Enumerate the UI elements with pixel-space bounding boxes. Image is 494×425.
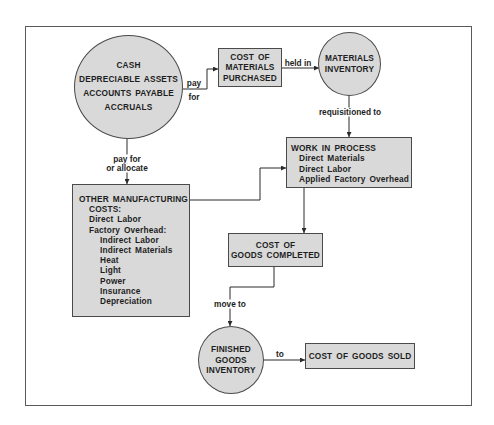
edge-goods-completed-to-finished-goods — [230, 267, 274, 326]
node-subitem: Power — [79, 276, 189, 286]
node-item: Direct Materials — [291, 153, 411, 163]
edge-label-requisitioned-to: requisitioned to — [318, 108, 382, 117]
node-line: GOODS COMPLETED — [231, 250, 320, 261]
node-line: COST OF — [256, 240, 295, 251]
node-line: COST OF — [230, 52, 269, 63]
node-title: WORK IN PROCESS — [291, 143, 411, 153]
node-subitem: Indirect Labor — [79, 235, 189, 245]
node-title: COSTS: — [79, 204, 189, 214]
node-cost-of-goods-completed: COST OF GOODS COMPLETED — [228, 233, 323, 267]
edge-label-for: for — [187, 93, 200, 102]
node-cost-of-goods-sold: COST OF GOODS SOLD — [305, 343, 415, 369]
edge-label-move-to: move to — [213, 300, 247, 309]
edge-label-to: to — [275, 350, 285, 359]
node-finished-goods-inventory: FINISHED GOODS INVENTORY — [198, 326, 264, 394]
node-line: DEPRECIABLE ASSETS — [79, 73, 178, 87]
node-line: ACCRUALS — [105, 101, 153, 115]
node-subitem: Insurance — [79, 286, 189, 296]
node-line: FINISHED — [211, 344, 251, 355]
node-line: GOODS — [215, 355, 247, 366]
edge-label-or-allocate: or allocate — [105, 164, 149, 173]
edge-label-pay: pay — [186, 79, 202, 88]
node-line: COST OF GOODS SOLD — [309, 351, 412, 361]
node-materials-inventory: MATERIALS INVENTORY — [318, 32, 381, 96]
node-subitem: Depreciation — [79, 296, 189, 306]
node-line: CASH — [116, 59, 140, 73]
node-subitem: Heat — [79, 255, 189, 265]
node-other-manufacturing-costs: OTHER MANUFACTURING COSTS: Direct Labor … — [72, 184, 190, 317]
edge-other-costs-to-wip — [190, 168, 286, 200]
node-line: MATERIALS — [325, 53, 374, 64]
node-item: Factory Overhead: — [79, 225, 189, 235]
node-item: Direct Labor — [291, 164, 411, 174]
node-line: ACCOUNTS PAYABLE — [83, 87, 174, 101]
node-title: OTHER MANUFACTURING — [79, 194, 189, 204]
node-subitem: Indirect Materials — [79, 245, 189, 255]
node-work-in-process: WORK IN PROCESS Direct Materials Direct … — [286, 137, 412, 188]
edge-label-held-in: held in — [284, 59, 313, 68]
node-cost-of-materials-purchased: COST OF MATERIALS PURCHASED — [218, 48, 282, 87]
node-line: INVENTORY — [325, 64, 374, 75]
node-subitem: Light — [79, 265, 189, 275]
node-line: PURCHASED — [223, 73, 277, 84]
cost-flow-diagram: CASH DEPRECIABLE ASSETS ACCOUNTS PAYABLE… — [0, 0, 494, 425]
node-line: MATERIALS — [225, 62, 274, 73]
node-item: Direct Labor — [79, 214, 189, 224]
node-item: Applied Factory Overhead — [291, 174, 411, 184]
node-cash-assets-payables-accruals: CASH DEPRECIABLE ASSETS ACCOUNTS PAYABLE… — [74, 35, 183, 139]
node-line: INVENTORY — [206, 365, 255, 376]
